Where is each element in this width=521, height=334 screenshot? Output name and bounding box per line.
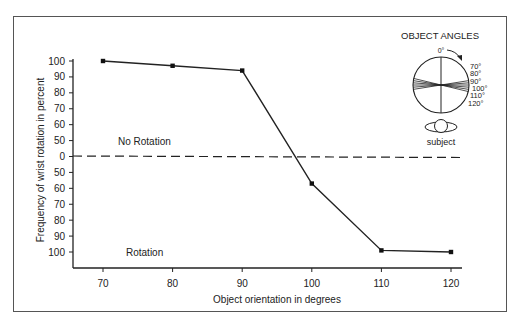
no-rotation-label: No Rotation: [118, 136, 171, 147]
x-tick-label: 110: [373, 278, 389, 289]
y-axis-title: Frequency of wrist rotation in percent: [35, 78, 46, 243]
y-tick-label: 100: [48, 247, 65, 258]
x-tick-label: 90: [237, 278, 249, 289]
y-tick-label: 70: [54, 199, 66, 210]
angle-labels: 70°80°90°100°110°120°: [468, 62, 488, 108]
x-tick-label: 120: [443, 278, 460, 289]
y-tick-label: 50: [54, 135, 66, 146]
y-tick-label: 60: [54, 183, 66, 194]
y-tick-label: 0: [59, 151, 65, 162]
rotation-label: Rotation: [126, 247, 163, 258]
inset-zero-label: 0°: [438, 47, 445, 54]
subject-label: subject: [427, 137, 456, 147]
data-point-marker: [240, 68, 244, 72]
x-tick-label: 80: [167, 278, 179, 289]
data-point-marker: [379, 248, 383, 252]
y-tick-label: 80: [54, 215, 66, 226]
data-point-marker: [449, 250, 453, 254]
x-ticks: 708090100110120: [97, 268, 459, 289]
y-ticks: 100908070605005060708090100: [48, 56, 73, 258]
x-tick-label: 100: [303, 278, 320, 289]
data-point-marker: [170, 64, 174, 68]
angle-label: 120°: [468, 99, 484, 108]
arrowhead-icon: [457, 55, 462, 61]
y-tick-label: 90: [54, 231, 66, 242]
y-tick-label: 90: [54, 71, 66, 82]
zero-reference-line: [73, 156, 462, 158]
y-tick-label: 60: [54, 119, 66, 130]
x-axis-title: Object orientation in degrees: [213, 294, 341, 305]
data-point-marker: [101, 59, 105, 63]
inset-title: OBJECT ANGLES: [401, 30, 479, 41]
y-tick-label: 70: [54, 103, 66, 114]
y-tick-label: 80: [54, 87, 66, 98]
x-tick-label: 70: [97, 278, 109, 289]
subject-head-icon: [435, 120, 448, 133]
object-angles-inset: OBJECT ANGLES 0° 70°80°90°100°110°120° s…: [401, 30, 488, 147]
chart: 100908070605005060708090100 708090100110…: [0, 0, 521, 334]
y-tick-label: 50: [54, 167, 66, 178]
y-tick-label: 100: [48, 56, 65, 67]
data-point-marker: [310, 181, 314, 185]
